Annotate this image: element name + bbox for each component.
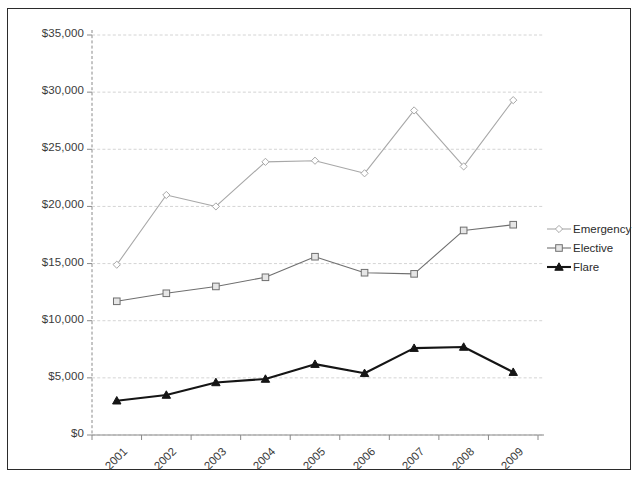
data-point-marker-diamond	[163, 191, 170, 198]
y-tick-label: $25,000	[10, 141, 84, 153]
series-layer	[113, 97, 518, 404]
y-tick-label: $15,000	[10, 256, 84, 268]
gridlines	[92, 35, 544, 435]
legend-item-flare[interactable]: Flare	[546, 257, 638, 276]
y-tick-label: $20,000	[10, 198, 84, 210]
legend-marker-diamond-icon	[546, 222, 572, 236]
data-point-marker-square	[163, 290, 170, 297]
data-point-marker-square	[113, 298, 120, 305]
data-point-marker-diamond	[555, 225, 562, 232]
data-point-marker-square	[460, 227, 467, 234]
y-tick-label: $30,000	[10, 84, 84, 96]
y-tick-label: $35,000	[10, 27, 84, 39]
y-tick-label: $0	[10, 427, 84, 439]
data-point-marker-diamond	[311, 157, 318, 164]
chart-legend: EmergencyElectiveFlare	[546, 219, 638, 276]
y-tick-label: $10,000	[10, 313, 84, 325]
series-elective	[113, 221, 516, 304]
series-emergency	[113, 97, 517, 269]
series-line	[117, 225, 513, 302]
legend-marker-square-icon	[546, 241, 572, 255]
x-tick-marks	[92, 435, 538, 440]
legend-marker-triangle-icon	[546, 260, 572, 274]
data-point-marker-square	[312, 253, 319, 260]
series-flare	[113, 343, 518, 404]
data-point-marker-square	[510, 221, 517, 228]
series-line	[117, 100, 513, 265]
series-line	[117, 347, 513, 401]
data-point-marker-square	[262, 274, 269, 281]
data-point-marker-square	[361, 269, 368, 276]
data-point-marker-square	[213, 283, 220, 290]
legend-label: Elective	[573, 242, 613, 254]
legend-label: Flare	[573, 261, 599, 273]
legend-item-emergency[interactable]: Emergency	[546, 219, 638, 238]
y-tick-label: $5,000	[10, 370, 84, 382]
data-point-marker-square	[556, 244, 563, 251]
axis-lines	[87, 30, 544, 435]
data-point-marker-square	[411, 271, 418, 278]
legend-item-elective[interactable]: Elective	[546, 238, 638, 257]
data-point-marker-diamond	[113, 261, 120, 268]
line-chart-plot	[0, 0, 640, 480]
legend-label: Emergency	[573, 223, 631, 235]
chart-figure: $35,000$30,000$25,000$20,000$15,000$10,0…	[0, 0, 640, 480]
